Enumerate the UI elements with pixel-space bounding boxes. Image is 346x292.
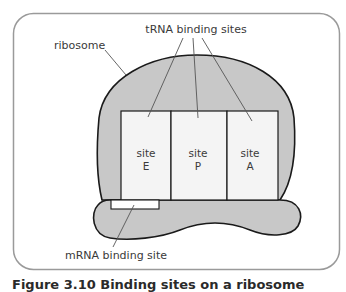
site-e-letter: E xyxy=(143,160,150,172)
site-a-letter: A xyxy=(246,160,254,172)
trna-binding-sites-label: tRNA binding sites xyxy=(145,23,247,36)
ribosome-label: ribosome xyxy=(54,39,105,52)
mrna-binding-site-label: mRNA binding site xyxy=(65,249,167,262)
site-p-letter: P xyxy=(195,160,201,172)
site-e-word: site xyxy=(137,147,156,159)
figure-caption: Figure 3.10 Binding sites on a ribosome xyxy=(12,277,304,292)
mrna-binding-rect xyxy=(111,200,159,209)
site-a-word: site xyxy=(241,147,260,159)
site-p-word: site xyxy=(189,147,208,159)
